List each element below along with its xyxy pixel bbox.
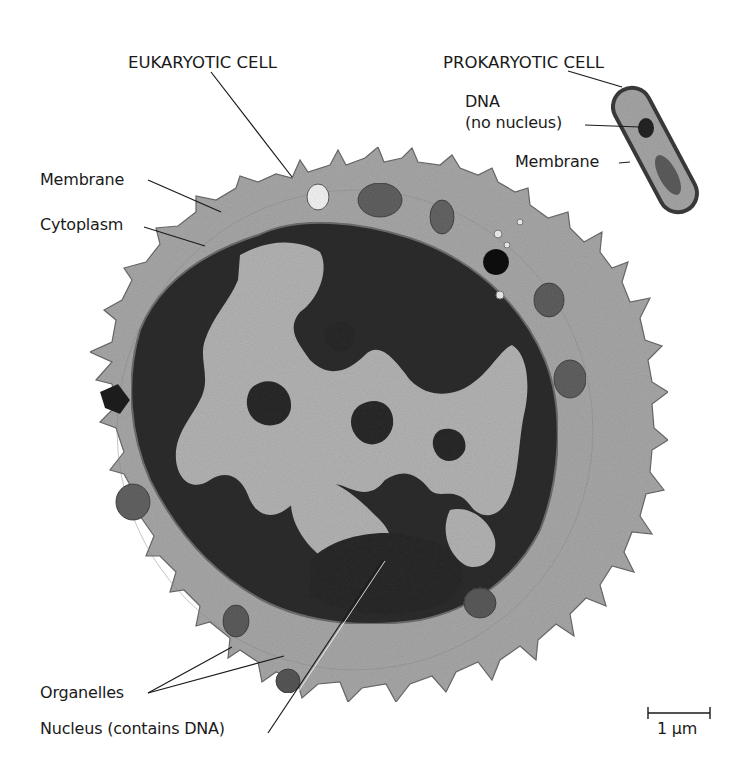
leader-prokaryotic-cell (568, 71, 622, 87)
label-no-nucleus: (no nucleus) (465, 114, 562, 132)
label-eukaryotic-cell: EUKARYOTIC CELL (128, 54, 277, 72)
label-prok-membrane: Membrane (515, 153, 599, 171)
prokaryotic-dna (638, 118, 654, 138)
label-nucleus: Nucleus (contains DNA) (40, 720, 225, 738)
micrograph-art (0, 0, 746, 775)
leader-eukaryotic-cell (211, 72, 292, 177)
cell-comparison-figure: EUKARYOTIC CELL PROKARYOTIC CELL Membran… (0, 0, 746, 775)
leader-organelle-1 (148, 647, 232, 693)
label-cytoplasm: Cytoplasm (40, 216, 123, 234)
label-prokaryotic-cell: PROKARYOTIC CELL (443, 54, 604, 72)
leader-prok-membrane (619, 162, 630, 163)
label-dna: DNA (465, 93, 500, 111)
label-euk-membrane: Membrane (40, 171, 124, 189)
label-organelles: Organelles (40, 684, 124, 702)
scale-bar (648, 707, 710, 719)
scale-bar-label: 1 µm (657, 720, 697, 738)
leader-euk-membrane (148, 180, 221, 212)
prokaryotic-cell (606, 81, 703, 219)
